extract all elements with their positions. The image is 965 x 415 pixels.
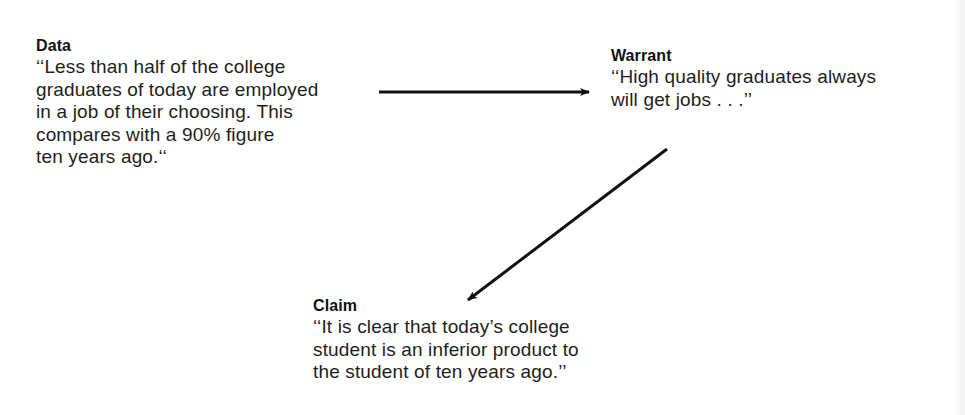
arrows-layer <box>0 0 965 415</box>
warrant-to-claim-arrow <box>468 149 667 300</box>
